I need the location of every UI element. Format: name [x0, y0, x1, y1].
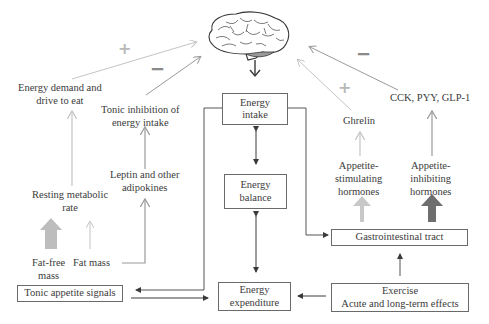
large-up-arrow-icon	[40, 218, 62, 249]
minus-sign-tonic-inhibition: −	[150, 58, 165, 79]
label-leptin: Leptin and otheradipokines	[110, 168, 179, 194]
label-ghrelin: Ghrelin	[343, 114, 375, 127]
label-tonic-inhibition: Tonic inhibition ofenergy intake	[101, 103, 180, 129]
plus-sign-ghrelin: +	[338, 78, 351, 97]
label-cck-pyy-glp1: CCK, PYY, GLP-1	[390, 91, 470, 104]
light-up-arrow-icon	[353, 196, 371, 222]
minus-sign-cck: −	[356, 43, 371, 64]
node-gastrointestinal-tract: Gastrointestinal tract	[331, 229, 468, 246]
label-fat-mass: Fat mass	[73, 256, 110, 269]
plus-sign-energy-demand: +	[118, 39, 131, 58]
node-energy-balance: Energybalance	[224, 174, 287, 209]
label-appetite-inhibiting-hormones: Appetite-inhibitinghormones	[410, 159, 451, 198]
node-tonic-appetite-signals: Tonic appetite signals	[17, 285, 123, 302]
label-appetite-stimulating-hormones: Appetite-stimulatinghormones	[335, 159, 382, 198]
label-resting-metabolic-rate: Resting metabolicrate	[32, 188, 108, 214]
dark-up-arrow-icon	[421, 194, 443, 222]
label-fat-free-mass: Fat-freemass	[32, 256, 65, 282]
node-exercise: ExerciseAcute and long-term effects	[331, 283, 469, 312]
brain-icon	[209, 12, 289, 60]
node-energy-intake: Energyintake	[222, 93, 288, 125]
node-energy-expenditure: Energyexpenditure	[218, 282, 291, 311]
label-energy-demand: Energy demand anddrive to eat	[18, 81, 102, 107]
